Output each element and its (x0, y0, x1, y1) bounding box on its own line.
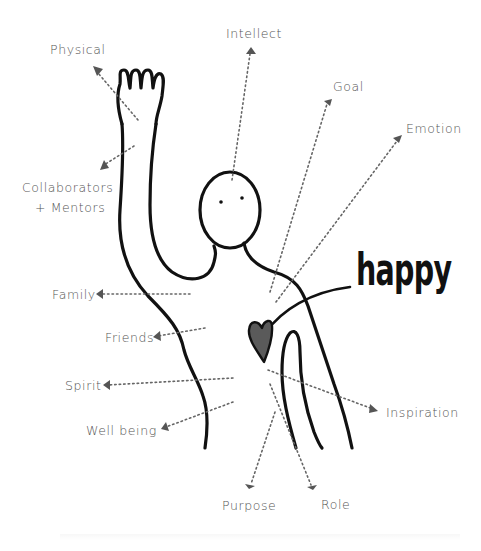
person-figure (118, 70, 352, 448)
left-arm-inner (150, 124, 216, 279)
arrow-icon-spirit (103, 380, 110, 390)
label-friends: Friends (105, 330, 154, 345)
connector-spirit (108, 378, 233, 385)
bottom-shadow (60, 534, 460, 540)
connector-friends (158, 328, 205, 336)
label-role: Role (321, 497, 350, 512)
label-inspiration: Inspiration (386, 405, 459, 420)
label-emotion: Emotion (406, 121, 462, 136)
label-collaborators-line1: Collaborators (22, 178, 113, 198)
label-spirit: Spirit (65, 378, 101, 393)
label-purpose: Purpose (222, 498, 276, 513)
connector-intellect (232, 54, 250, 180)
happy-word: happy (356, 248, 451, 292)
arrow-icon-purpose (245, 484, 255, 489)
right-arm (282, 332, 322, 448)
label-intellect: Intellect (226, 26, 282, 41)
connector-purpose (251, 412, 275, 484)
label-wellbeing: Well being (86, 423, 157, 438)
label-physical: Physical (50, 42, 106, 57)
connector-goal (270, 104, 327, 292)
dotted-connectors (98, 54, 397, 485)
connector-collaborators (104, 146, 134, 165)
label-family: Family (52, 287, 96, 302)
arrow-icon-inspiration (369, 404, 378, 413)
arrow-icon-role (307, 485, 317, 490)
left-arm-outer (120, 124, 207, 448)
arrow-icon-emotion (393, 135, 402, 143)
right-eye (240, 196, 244, 200)
arrow-icon-collaborators (100, 160, 109, 170)
label-goal: Goal (333, 79, 364, 94)
heart-icon (249, 321, 272, 362)
arrow-icon-family (96, 289, 103, 299)
arrow-icon-friends (153, 331, 161, 341)
left-eye (219, 200, 223, 204)
head (200, 172, 260, 248)
raised-hand (118, 70, 164, 124)
arrow-icon-physical (93, 66, 103, 76)
happy-text: happy (356, 244, 451, 295)
arrow-icon-goal (324, 99, 332, 106)
connector-wellbeing (166, 402, 233, 427)
arrow-icon-intellect (246, 47, 256, 54)
label-collaborators-line2: + Mentors (22, 198, 113, 218)
label-collaborators: Collaborators + Mentors (22, 178, 113, 218)
